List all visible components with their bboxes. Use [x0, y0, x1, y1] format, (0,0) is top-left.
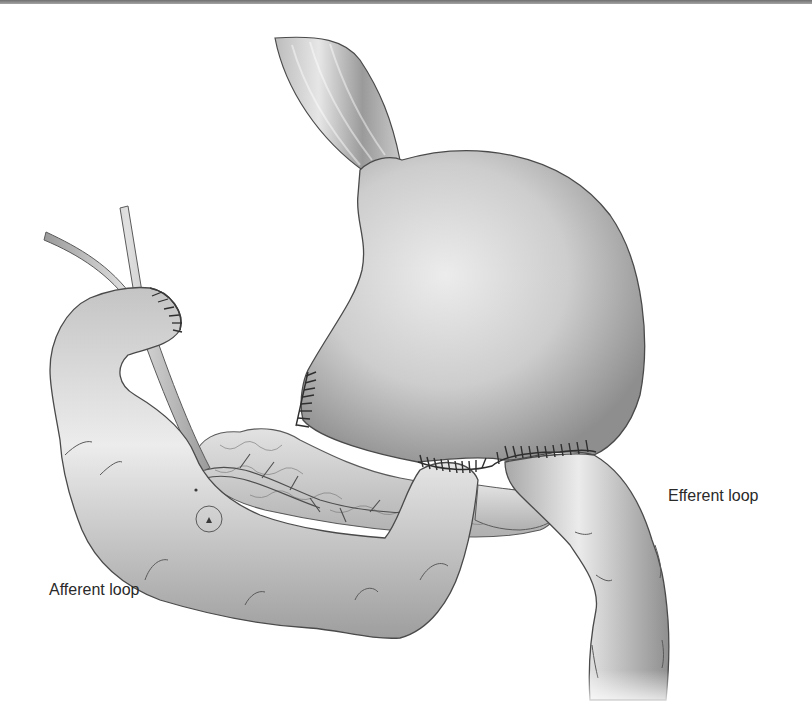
esophagus [275, 37, 400, 172]
efferent-loop [505, 454, 680, 710]
stomach-remnant [301, 151, 644, 462]
efferent-loop-label: Efferent loop [668, 487, 758, 505]
anatomy-illustration [0, 0, 812, 722]
afferent-loop-label: Afferent loop [49, 581, 139, 599]
